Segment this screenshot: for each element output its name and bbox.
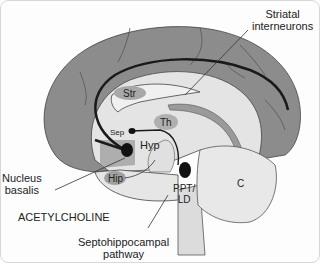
brain-sagittal-diagram: [0, 0, 320, 263]
label-str: Str: [123, 88, 136, 99]
label-striatal-interneurons: Striatal interneurons: [252, 8, 313, 32]
ppt-ld-dot: [179, 162, 191, 178]
label-th: Th: [160, 117, 172, 128]
label-line: pathway: [78, 248, 169, 260]
label-line: basalis: [2, 184, 42, 196]
nucleus-basalis-dot: [121, 143, 133, 157]
septum-dot: [129, 128, 136, 134]
label-line: LD: [173, 194, 195, 205]
diagram-title: ACETYLCHOLINE: [18, 211, 110, 223]
label-line: Striatal: [252, 8, 313, 20]
label-line: interneurons: [252, 20, 313, 32]
label-line: Septohippocampal: [78, 236, 169, 248]
label-hip: Hip: [108, 173, 123, 184]
label-nucleus-basalis: Nucleus basalis: [2, 172, 42, 196]
label-cerebellum: C: [237, 178, 244, 189]
label-hyp: Hyp: [140, 140, 160, 151]
label-septohippocampal-pathway: Septohippocampal pathway: [78, 236, 169, 260]
label-sep: Sep: [110, 127, 124, 138]
label-ppt-ld: PPT/ LD: [173, 183, 195, 205]
label-line: Nucleus: [2, 172, 42, 184]
label-line: PPT/: [173, 183, 195, 194]
